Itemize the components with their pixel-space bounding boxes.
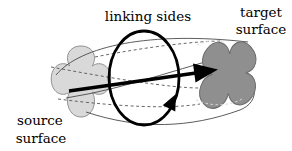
linking-circle-arrowhead-icon — [163, 91, 183, 112]
label-source-surface-line2: surface — [16, 130, 67, 146]
label-source-surface-line1: source — [17, 112, 63, 128]
label-target-surface-line2: surface — [236, 21, 287, 37]
figure-linking-sides-diagram: linking sides target surface source surf… — [0, 0, 292, 151]
diagram-svg: linking sides target surface source surf… — [0, 0, 292, 151]
label-target-surface-line1: target — [240, 4, 283, 20]
label-linking-sides: linking sides — [105, 8, 191, 24]
